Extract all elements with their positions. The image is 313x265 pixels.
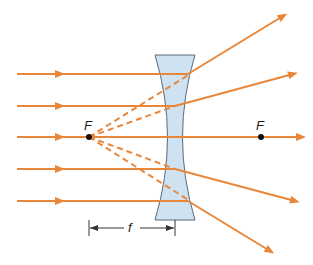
- focal-point-left: [86, 134, 92, 140]
- focal-point-right: [258, 134, 264, 140]
- lens-diagram: [0, 0, 313, 265]
- incoming-rays: [17, 74, 188, 201]
- focal-length-label: f: [128, 221, 132, 234]
- focal-label-right: F: [256, 119, 264, 132]
- focal-label-left: F: [84, 119, 92, 132]
- focal-length-dimension: [89, 220, 175, 236]
